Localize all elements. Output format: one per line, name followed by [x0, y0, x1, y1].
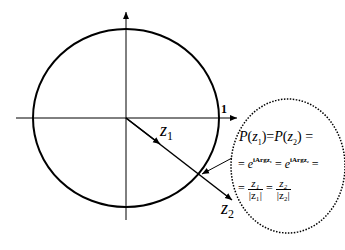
z1-base: z — [160, 120, 167, 140]
z2-label: z2 — [221, 198, 234, 222]
z2-base: z — [221, 198, 228, 218]
z1-sub: 1 — [167, 129, 173, 143]
unit-label: 1 — [221, 102, 227, 117]
z1-label: z1 — [160, 120, 173, 144]
z2-vector — [126, 118, 232, 200]
callout-pointer — [202, 158, 232, 174]
fraction-z1: z₁|z₁| — [248, 178, 263, 201]
callout-line-3: = z₁|z₁| = z₂|z₂| — [238, 178, 291, 201]
callout-line-2: = eiArgz₁ = eiArgz₂ = — [238, 157, 319, 170]
callout-line-1: P(z1)=P(z2) = — [239, 130, 313, 147]
fraction-z2: z₂|z₂| — [276, 178, 291, 201]
z2-sub: 2 — [228, 207, 234, 221]
